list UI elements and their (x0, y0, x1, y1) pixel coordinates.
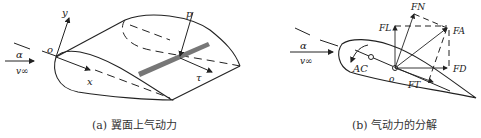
origin-label-b: o (389, 74, 395, 84)
drag-label: FD (452, 64, 466, 74)
alpha-label-b: α (300, 40, 307, 51)
caption-b: (b) 气动力的分解 (352, 116, 437, 132)
shear-label: τ (196, 72, 202, 83)
normal-force-label: FN (410, 2, 426, 12)
resultant-force-arrow (395, 28, 447, 68)
trailing-edge (172, 66, 240, 100)
moment-arrow (351, 45, 368, 62)
alpha-label: α (16, 49, 23, 60)
lift-label: FL (378, 23, 391, 33)
normal-force-arrow (395, 14, 414, 68)
chord-extension-b (320, 40, 338, 46)
caption-a: (a) 翼面上气动力 (92, 116, 177, 132)
construction-line-t (429, 28, 447, 80)
pressure-label: p (186, 8, 193, 19)
figure-a-wing: α v∞ y x o p τ (5, 7, 240, 100)
root-airfoil (55, 51, 172, 100)
tangential-force-label: FT (407, 80, 421, 90)
ac-label: AC (352, 63, 368, 74)
tip-airfoil-upper (125, 15, 240, 66)
origin-label: o (47, 44, 53, 55)
tip-airfoil-lower-hidden (122, 20, 240, 66)
root-chord-dashed (95, 70, 170, 98)
aerodynamic-center-marker (369, 55, 374, 60)
v-inf-label: v∞ (16, 66, 29, 76)
tip-chord-dashed (130, 25, 170, 40)
x-axis-arrow (56, 57, 90, 70)
alpha-reference-line-b (295, 28, 310, 35)
y-axis-label: y (61, 7, 68, 18)
v-inf-label-b: v∞ (300, 56, 313, 66)
resultant-label: FA (452, 26, 465, 36)
x-axis-label: x (87, 76, 93, 87)
figure-b-airfoil: α v∞ AC o FN FL FA FD FT (290, 2, 476, 98)
